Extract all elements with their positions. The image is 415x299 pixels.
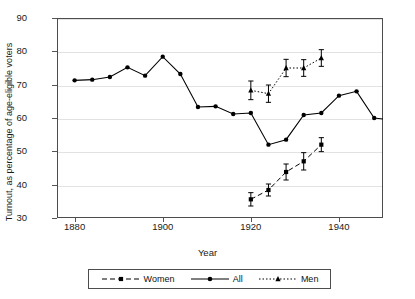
data-point	[319, 143, 323, 147]
x-tick-label: 1900	[138, 221, 188, 232]
x-tick-mark	[339, 218, 340, 222]
series-line	[75, 57, 383, 145]
y-axis-title: Turnout, as percentage of age-eligible v…	[4, 32, 15, 232]
y-tick-mark	[52, 85, 57, 86]
data-point	[125, 65, 129, 69]
data-point	[302, 113, 306, 117]
x-tick-mark	[163, 218, 164, 222]
data-point	[213, 104, 217, 108]
y-tick-label: 70	[0, 79, 27, 90]
data-point	[231, 112, 235, 116]
data-point	[90, 77, 94, 81]
y-tick-label: 80	[0, 45, 27, 56]
y-tick-label: 30	[0, 212, 27, 223]
y-tick-mark	[52, 218, 57, 219]
data-point	[266, 91, 271, 96]
data-point	[108, 75, 112, 79]
series-women	[248, 138, 324, 206]
data-point	[301, 65, 306, 70]
y-tick-label: 40	[0, 179, 27, 190]
data-point	[283, 65, 288, 70]
series-all	[72, 54, 383, 146]
square-marker	[101, 273, 141, 285]
data-point	[143, 73, 147, 77]
y-tick-mark	[52, 185, 57, 186]
legend-item-women: Women	[101, 273, 175, 285]
series-men	[248, 50, 324, 103]
data-point	[284, 170, 288, 174]
x-tick-label: 1920	[226, 221, 276, 232]
data-point	[266, 188, 270, 192]
data-point	[196, 105, 200, 109]
y-tick-mark	[52, 18, 57, 19]
data-point	[319, 55, 324, 60]
legend-label: Men	[301, 274, 319, 284]
data-point	[284, 137, 288, 141]
chart-legend: WomenAllMen	[88, 269, 331, 289]
legend-label: Women	[144, 274, 175, 284]
data-point	[72, 78, 76, 82]
data-point	[337, 93, 341, 97]
y-tick-label: 90	[0, 12, 27, 23]
legend-item-men: Men	[258, 273, 319, 285]
data-point	[266, 142, 270, 146]
data-point	[302, 159, 306, 163]
x-tick-mark	[251, 218, 252, 222]
x-axis-title: Year	[0, 247, 415, 258]
legend-item-all: All	[190, 273, 243, 285]
triangle-marker	[258, 273, 298, 285]
y-tick-label: 60	[0, 112, 27, 123]
data-point	[249, 111, 253, 115]
data-point	[319, 111, 323, 115]
y-tick-label: 50	[0, 145, 27, 156]
turnout-line-chart: Turnout, as percentage of age-eligible v…	[0, 0, 415, 299]
data-point	[354, 89, 358, 93]
y-tick-mark	[52, 51, 57, 52]
data-point	[248, 87, 253, 92]
data-point	[372, 116, 376, 120]
data-point	[161, 54, 165, 58]
circle-marker	[190, 273, 230, 285]
x-tick-label: 1940	[314, 221, 364, 232]
x-tick-mark	[75, 218, 76, 222]
y-tick-mark	[52, 118, 57, 119]
data-series-layer	[57, 18, 383, 218]
x-tick-label: 1880	[50, 221, 100, 232]
y-tick-mark	[52, 151, 57, 152]
legend-label: All	[233, 274, 243, 284]
data-point	[249, 197, 253, 201]
data-point	[178, 72, 182, 76]
